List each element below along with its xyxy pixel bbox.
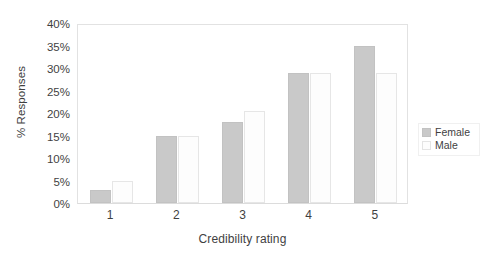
bar-male-1: [112, 181, 133, 204]
x-axis-tick-label: 2: [173, 208, 180, 222]
bar-group: [222, 25, 265, 203]
bar-group: [288, 25, 331, 203]
bar-female-3: [222, 122, 243, 203]
legend-item-male: Male: [422, 139, 476, 152]
plot-area: [77, 24, 408, 204]
bar-male-3: [244, 111, 265, 203]
x-axis-tick-labels: 12345: [77, 208, 408, 228]
y-axis-tick-labels: 0%5%10%15%20%25%30%35%40%: [26, 24, 70, 204]
y-axis-tick-label: 0%: [26, 198, 70, 210]
bar-group: [156, 25, 199, 203]
male-swatch: [422, 141, 431, 150]
bar-male-5: [376, 73, 397, 204]
x-axis-tick-label: 4: [305, 208, 312, 222]
female-swatch: [422, 128, 431, 137]
y-axis-tick-label: 40%: [26, 18, 70, 30]
bar-group: [90, 25, 133, 203]
y-axis-tick-label: 15%: [26, 131, 70, 143]
y-axis-tick-label: 20%: [26, 108, 70, 120]
bar-female-2: [156, 136, 177, 204]
bar-group: [354, 25, 397, 203]
bar-female-5: [354, 46, 375, 204]
legend-label: Male: [435, 140, 458, 151]
x-axis-title: Credibility rating: [77, 232, 408, 246]
x-axis-tick-label: 1: [107, 208, 114, 222]
bar-male-4: [310, 73, 331, 204]
x-axis-tick-label: 3: [239, 208, 246, 222]
bars-layer: [78, 25, 407, 203]
x-axis-tick-label: 5: [372, 208, 379, 222]
bar-female-4: [288, 73, 309, 204]
y-axis-tick-label: 30%: [26, 63, 70, 75]
y-axis-tick-label: 10%: [26, 153, 70, 165]
bar-male-2: [178, 136, 199, 204]
bar-female-1: [90, 190, 111, 204]
y-axis-tick-label: 5%: [26, 176, 70, 188]
legend-item-female: Female: [422, 126, 476, 139]
legend-label: Female: [435, 127, 470, 138]
bar-chart-figure: % Responses 0%5%10%15%20%25%30%35%40% 12…: [0, 0, 484, 265]
chart-legend: FemaleMale: [418, 123, 480, 156]
y-axis-tick-label: 35%: [26, 41, 70, 53]
y-axis-tick-label: 25%: [26, 86, 70, 98]
